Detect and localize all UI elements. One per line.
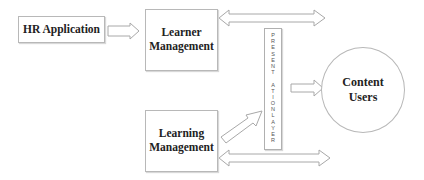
learner-management-label-line2: Management bbox=[149, 40, 214, 54]
content-users-label-line1: Content bbox=[342, 75, 383, 90]
content-users-circle: Content Users bbox=[321, 47, 405, 133]
learning-content-double-arrow bbox=[219, 150, 330, 166]
hr-application-box: HR Application bbox=[18, 16, 105, 43]
learner-management-box: Learner Management bbox=[145, 9, 218, 71]
hr-to-learner-arrow bbox=[108, 23, 139, 39]
learning-management-box: Learning Management bbox=[145, 110, 218, 172]
hr-application-label: HR Application bbox=[23, 23, 100, 37]
presentation-layer-bar: P R E S E N T A T I O N L A Y E R bbox=[264, 28, 282, 150]
learner-content-double-arrow bbox=[219, 10, 325, 26]
learner-management-label-line1: Learner bbox=[149, 26, 214, 40]
presentation-letter: T bbox=[271, 69, 274, 75]
presentation-to-content-arrow bbox=[291, 80, 323, 96]
learning-to-presentation-arrow bbox=[221, 111, 262, 143]
content-users-label-line2: Users bbox=[342, 90, 383, 105]
learning-management-label-line1: Learning bbox=[149, 127, 214, 141]
learning-management-label-line2: Management bbox=[149, 141, 214, 155]
presentation-letter: R bbox=[271, 137, 275, 143]
